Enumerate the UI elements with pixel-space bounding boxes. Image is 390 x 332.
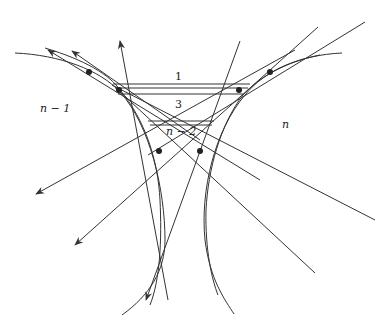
- right-outer-curve: [204, 53, 342, 314]
- arrow-lower-left-2: [75, 27, 318, 245]
- right-inner-curve: [206, 55, 320, 295]
- tangent-point-2: [116, 87, 122, 93]
- region-label-n-minus-1: n − 1: [40, 102, 70, 115]
- arrow-up: [120, 41, 168, 300]
- region-label-1: 1: [175, 70, 182, 83]
- region-label-n: n: [282, 118, 289, 131]
- tangent-point-5: [156, 148, 162, 154]
- region-label-3: 3: [175, 98, 182, 111]
- region-label-n-minus-2: n − 2: [166, 125, 196, 138]
- tangent-point-3: [236, 87, 242, 93]
- diagram: n − 1 n 1 3 n − 2: [0, 0, 390, 332]
- tangent-point-6: [197, 148, 203, 154]
- diagram-canvas: n − 1 n 1 3 n − 2: [0, 0, 390, 332]
- tangent-point-1: [86, 69, 92, 75]
- arrow-lower-left-1: [36, 50, 295, 194]
- arrow-down: [146, 41, 240, 300]
- left-inner-curve: [45, 48, 161, 305]
- tangent-point-4: [267, 69, 273, 75]
